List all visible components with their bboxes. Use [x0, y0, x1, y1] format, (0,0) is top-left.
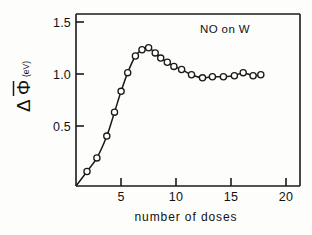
- y-tick-marks: [76, 22, 84, 126]
- data-point-marker: [94, 155, 100, 161]
- data-point-marker: [164, 59, 170, 65]
- data-curve: [76, 48, 261, 186]
- figure-container: 1.5 1.0 0.5 5 10 15 20 number of doses Δ…: [0, 0, 312, 235]
- y-axis-title-unit: (eV): [21, 61, 31, 77]
- x-tick-labels: 5 10 15 20: [117, 190, 293, 204]
- axes-frame: [76, 14, 300, 186]
- y-tick-label-1.5: 1.5: [53, 16, 71, 30]
- x-tick-label-5: 5: [117, 190, 124, 204]
- chart-svg: 1.5 1.0 0.5 5 10 15 20 number of doses Δ…: [0, 0, 312, 235]
- data-point-marker: [240, 70, 246, 76]
- data-point-marker: [125, 70, 131, 76]
- data-point-marker: [209, 74, 215, 80]
- data-point-marker: [84, 168, 90, 174]
- data-point-marker: [152, 50, 158, 56]
- x-tick-marks: [121, 178, 286, 186]
- data-point-marker: [250, 73, 256, 79]
- y-axis-title: Δ Φ (eV): [13, 61, 34, 112]
- x-tick-label-15: 15: [224, 190, 238, 204]
- data-point-marker: [179, 66, 185, 72]
- data-point-marker: [111, 109, 117, 115]
- x-tick-label-20: 20: [279, 190, 293, 204]
- x-tick-label-10: 10: [169, 190, 183, 204]
- data-point-marker: [118, 88, 124, 94]
- y-tick-labels: 1.5 1.0 0.5: [53, 16, 71, 134]
- data-point-marker: [132, 53, 138, 59]
- data-point-marker: [220, 74, 226, 80]
- data-markers: [84, 45, 264, 175]
- data-point-marker: [199, 75, 205, 81]
- data-point-marker: [188, 72, 194, 78]
- data-point-marker: [158, 55, 164, 61]
- data-point-marker: [258, 72, 264, 78]
- data-point-marker: [171, 63, 177, 69]
- data-point-marker: [104, 133, 110, 139]
- y-tick-label-0.5: 0.5: [53, 120, 71, 134]
- data-point-marker: [231, 73, 237, 79]
- y-tick-label-1.0: 1.0: [53, 68, 71, 82]
- data-point-marker: [139, 47, 145, 53]
- y-axis-title-symbol: Δ Φ: [13, 80, 34, 112]
- x-axis-title: number of doses: [135, 210, 238, 224]
- plot-title-annotation: NO on W: [200, 23, 250, 35]
- data-point-marker: [146, 45, 152, 51]
